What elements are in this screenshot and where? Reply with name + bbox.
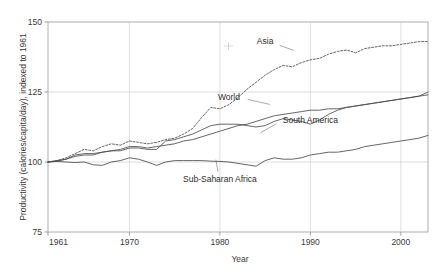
series-label-south-america: South America <box>283 115 339 125</box>
tick-marks <box>45 22 401 236</box>
chart-container: 75100125150 19611970198019902000 Year Pr… <box>0 0 447 278</box>
y-axis-title: Productivity (calories/capita/day), inde… <box>18 33 28 221</box>
leader-line <box>248 99 270 104</box>
series-label-world: World <box>218 92 240 102</box>
stray-mark-artifact <box>224 42 233 50</box>
y-tick-label: 100 <box>28 157 42 167</box>
leader-line <box>260 124 276 133</box>
y-tick-label: 75 <box>33 227 43 237</box>
x-axis-title: Year <box>231 254 248 264</box>
y-tick-label: 125 <box>28 87 42 97</box>
series-label-sub-saharan-africa: Sub-Saharan Africa <box>183 174 257 184</box>
x-axis-tick-labels: 19611970198019902000 <box>49 237 411 247</box>
label-leader-lines <box>216 45 294 171</box>
x-tick-label: 2000 <box>391 237 410 247</box>
x-tick-label: 1990 <box>301 237 320 247</box>
data-series-lines <box>48 42 428 167</box>
productivity-line-chart: 75100125150 19611970198019902000 Year Pr… <box>0 0 447 278</box>
leader-line <box>280 45 294 50</box>
series-line-sub-saharan-africa <box>48 135 428 166</box>
y-tick-label: 150 <box>28 17 42 27</box>
series-line-south-america <box>48 92 428 162</box>
y-axis-tick-labels: 75100125150 <box>28 17 42 237</box>
gridlines <box>48 22 428 232</box>
x-tick-label: 1970 <box>120 237 139 247</box>
plot-frame <box>48 22 428 232</box>
x-tick-label: 1961 <box>49 237 68 247</box>
x-tick-label: 1980 <box>210 237 229 247</box>
series-label-asia: Asia <box>257 36 274 46</box>
